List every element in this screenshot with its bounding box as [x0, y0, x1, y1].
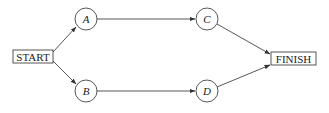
network-diagram: START FINISH A B C D	[0, 0, 329, 113]
node-d: D	[196, 80, 218, 102]
edge-start-a	[53, 27, 76, 52]
node-c: C	[196, 8, 218, 30]
node-b-label: B	[83, 85, 90, 97]
start-label: START	[16, 51, 50, 63]
start-node: START	[13, 50, 53, 63]
node-c-label: C	[203, 13, 211, 25]
node-b: B	[75, 80, 97, 102]
node-d-label: D	[202, 85, 211, 97]
edge-c-finish	[217, 24, 270, 54]
edge-d-finish	[217, 65, 270, 87]
finish-label: FINISH	[276, 53, 312, 65]
finish-node: FINISH	[271, 52, 316, 65]
edge-start-b	[53, 61, 76, 84]
node-a-label: A	[82, 13, 90, 25]
node-a: A	[75, 8, 97, 30]
